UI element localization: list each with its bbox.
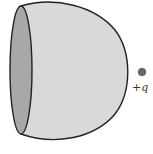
hemisphere-opening — [10, 6, 32, 134]
hemisphere-figure — [0, 0, 153, 154]
charge-label: +q — [132, 82, 148, 93]
point-charge — [138, 68, 146, 76]
diagram-canvas: +q — [0, 0, 153, 154]
hemisphere-surface — [21, 2, 128, 139]
